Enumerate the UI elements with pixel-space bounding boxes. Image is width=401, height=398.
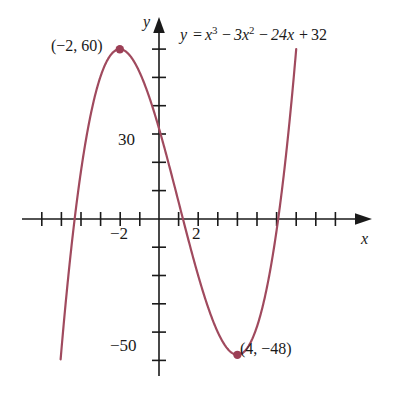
x-tick-label-minus-2: −2 — [110, 225, 128, 242]
local-maximum-label: (−2, 60) — [51, 38, 103, 54]
equation-y: y — [180, 27, 187, 43]
y-axis-label: y — [143, 14, 150, 30]
equation-constant: 32 — [311, 27, 327, 43]
y-tick-label-minus-50: −50 — [110, 337, 137, 354]
x-axis-arrowhead — [355, 213, 372, 225]
local-maximum-point — [116, 45, 124, 53]
y-tick-label-30: 30 — [118, 131, 135, 148]
x-tick-label-2: 2 — [192, 225, 201, 242]
x-axis-label: x — [361, 231, 368, 247]
equation-term-3x-squared: 3x2 — [234, 27, 255, 43]
equation-plus: + — [299, 27, 308, 43]
equation-term-24x: 24x — [271, 27, 294, 43]
y-axis-arrowhead — [153, 17, 165, 33]
cubic-curve — [61, 49, 297, 359]
equation-minus-1: − — [222, 27, 231, 43]
equation-3x2-exponent: 2 — [249, 24, 254, 36]
equation-minus-2: − — [259, 27, 268, 43]
equation-3x2-base: 3x — [234, 26, 249, 43]
equation-x3-exponent: 3 — [212, 24, 217, 36]
equation-equals: = — [193, 27, 202, 43]
equation-term-x-cubed: x3 — [205, 27, 218, 43]
plot-canvas — [0, 0, 401, 398]
local-minimum-label: (4, −48) — [240, 341, 292, 357]
graph-figure: y = x3 − 3x2 − 24x + 32 y x 30 −50 −2 2 … — [0, 0, 401, 398]
